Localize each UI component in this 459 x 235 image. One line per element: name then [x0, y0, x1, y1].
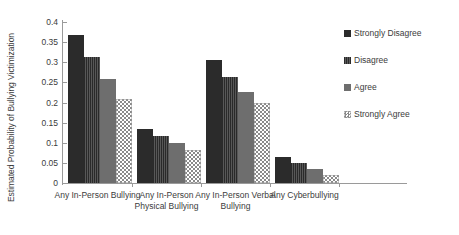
legend-item-label: Strongly Disagree [354, 28, 422, 38]
x-axis-category-label: Any Cyberbullying [260, 190, 349, 201]
bar [169, 143, 185, 183]
x-axis-separator [132, 183, 133, 187]
bar [185, 150, 201, 183]
legend-item[interactable]: Agree [344, 82, 377, 92]
bar [206, 60, 222, 183]
y-tick-mark [63, 183, 67, 184]
legend-item[interactable]: Strongly Agree [344, 109, 410, 119]
bar [254, 103, 270, 183]
legend-swatch-icon [344, 30, 351, 37]
x-axis-category-line: Bullying [191, 201, 280, 212]
bar [100, 79, 116, 183]
bar [291, 163, 307, 183]
bar-chart: Estimated Probability of Bullying Victim… [0, 0, 459, 235]
legend-item-label: Agree [354, 82, 377, 92]
y-tick-label: 0.1 [0, 138, 58, 148]
bar [238, 92, 254, 183]
bar [137, 129, 153, 183]
bar [116, 99, 132, 183]
legend-swatch-icon [344, 84, 351, 91]
y-tick-label: 0 [0, 178, 58, 188]
y-tick-label: 0.05 [0, 158, 58, 168]
bar [307, 169, 323, 183]
bar-group [275, 22, 339, 183]
bar-group [137, 22, 201, 183]
bar [222, 77, 238, 183]
bar [84, 57, 100, 183]
y-tick-label: 0.4 [0, 17, 58, 27]
legend-item-label: Disagree [354, 55, 388, 65]
x-axis-separator [339, 183, 340, 187]
y-tick-label: 0.3 [0, 57, 58, 67]
x-axis-line [62, 183, 407, 184]
legend-item[interactable]: Strongly Disagree [344, 28, 422, 38]
legend-item[interactable]: Disagree [344, 55, 388, 65]
bar [68, 35, 84, 183]
y-tick-label: 0.2 [0, 98, 58, 108]
bar-group [68, 22, 132, 183]
x-axis-category-line: Any Cyberbullying [260, 190, 349, 201]
legend-swatch-icon [344, 57, 351, 64]
bar-group [206, 22, 270, 183]
y-tick-label: 0.25 [0, 77, 58, 87]
y-tick-label: 0.35 [0, 37, 58, 47]
bar [153, 136, 169, 183]
bar [323, 175, 339, 183]
x-axis-separator [270, 183, 271, 187]
y-tick-label: 0.15 [0, 118, 58, 128]
plot-area [63, 22, 340, 183]
legend-item-label: Strongly Agree [354, 109, 410, 119]
legend-swatch-icon [344, 111, 351, 118]
x-axis-separator [201, 183, 202, 187]
bar [275, 157, 291, 183]
